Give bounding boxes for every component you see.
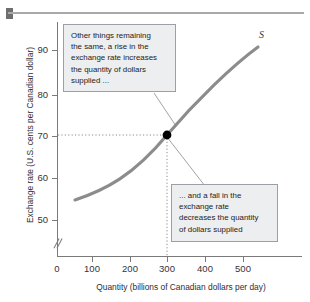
leader-line-supply-rise (154, 93, 176, 126)
annotation-line: ... and a fall in the (179, 190, 271, 201)
leader-line-supply-fall (167, 137, 205, 186)
annotation-line: supplied ... (71, 75, 169, 86)
annotation-line: the same, a rise in the (71, 41, 169, 52)
annotation-supply-rise: Other things remaining the same, a rise … (63, 24, 176, 92)
annotation-line: decreases the quantity (179, 212, 271, 223)
annotation-line: the quantity of dollars (71, 64, 169, 75)
annotation-line: exchange rate (179, 201, 271, 212)
annotation-line: exchange rate increases (71, 52, 169, 63)
annotation-supply-fall: ... and a fall in the exchange rate decr… (171, 184, 278, 242)
annotation-line: Other things remaining (71, 30, 169, 41)
plot-area: 90 80 70 60 50 0 100 200 300 400 500 Qua… (0, 0, 310, 302)
figure-container: 90 80 70 60 50 0 100 200 300 400 500 Qua… (0, 0, 310, 302)
annotation-line: of dollars supplied (179, 224, 271, 235)
supply-curve-label: S (259, 29, 264, 40)
equilibrium-point-marker (163, 131, 172, 140)
